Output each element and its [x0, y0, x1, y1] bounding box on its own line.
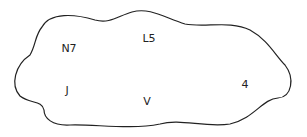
element-label-v: V: [143, 96, 151, 107]
element-label-l5: L5: [142, 33, 155, 44]
element-label-j: J: [65, 85, 68, 96]
set-diagram: N7 L5 J V 4: [0, 0, 307, 137]
element-label-n7: N7: [61, 43, 76, 54]
set-outline: [0, 0, 307, 137]
element-label-4: 4: [242, 79, 249, 90]
